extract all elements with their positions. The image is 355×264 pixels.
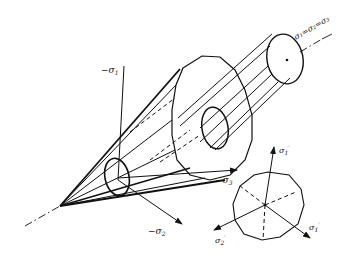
axis-sigma1-prime [265, 147, 274, 205]
deviatoric-plane [214, 147, 310, 240]
label-sigma2-prime: σ2′ [215, 234, 226, 246]
label-sigma1-prime: σ1′ [279, 144, 290, 156]
cone-surface [60, 69, 225, 206]
cone-section-large [172, 56, 252, 180]
axis-point [286, 59, 289, 62]
label-neg-sigma1: −σ1 [101, 65, 119, 76]
axis-neg-sigma2 [118, 180, 182, 224]
principal-axes [118, 66, 237, 224]
label-sigma3-prime: σ1′ [309, 221, 320, 233]
yield-surface-diagram: −σ1 −σ2 −σ3 σ₁=σ₂=σ₃ σ1′ σ2′ σ1′ [0, 0, 355, 264]
label-neg-sigma3: −σ3 [215, 175, 233, 186]
label-neg-sigma2: −σ2 [148, 226, 166, 237]
axis-sigma3-prime [265, 205, 310, 238]
